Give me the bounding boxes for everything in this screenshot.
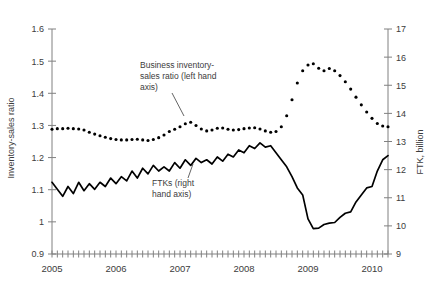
chart-annotations: Business inventory-sales ratio (left han… <box>140 60 217 199</box>
left-tick-label: 1.3 <box>31 121 44 131</box>
right-tick-label: 17 <box>396 24 406 34</box>
right-tick-label: 9 <box>396 249 401 259</box>
right-tick-label: 15 <box>396 81 406 91</box>
x-tick-label: 2005 <box>41 263 62 274</box>
data-series <box>50 62 389 229</box>
x-tick-label: 2006 <box>105 263 126 274</box>
left-tick-label: 1 <box>39 217 44 227</box>
right-axis-ticks: 17161514131211109 <box>384 24 406 259</box>
left-tick-label: 1.5 <box>31 57 44 67</box>
left-tick-label: 1.6 <box>31 24 44 34</box>
ftk-annotation-text: FTKs (righthand axis) <box>152 178 195 199</box>
inventory-annotation: Business inventory-sales ratio (left han… <box>140 60 217 116</box>
left-axis-title: Inventory-sales ratio <box>6 97 16 178</box>
right-tick-label: 16 <box>396 53 406 63</box>
right-tick-label: 10 <box>396 221 406 231</box>
chart-svg: 1.61.51.41.31.21.110.9 17161514131211109… <box>0 0 435 293</box>
x-tick-label: 2007 <box>169 263 190 274</box>
left-tick-label: 1.2 <box>31 153 44 163</box>
right-tick-label: 11 <box>396 193 405 203</box>
series-ftk <box>52 143 388 229</box>
right-tick-label: 12 <box>396 165 406 175</box>
right-tick-label: 13 <box>396 137 406 147</box>
series-inventory-ratio <box>50 62 389 142</box>
left-tick-label: 1.1 <box>31 185 44 195</box>
left-tick-label: 1.4 <box>31 89 44 99</box>
inventory-annotation-text: Business inventory-sales ratio (left han… <box>140 60 217 92</box>
right-axis-title: FTK, billion <box>415 129 425 174</box>
ftk-annotation: FTKs (righthand axis) <box>152 164 195 199</box>
chart-container: 1.61.51.41.31.21.110.9 17161514131211109… <box>0 0 435 293</box>
left-tick-label: 0.9 <box>31 249 44 259</box>
x-tick-label: 2008 <box>233 263 254 274</box>
x-tick-label: 2010 <box>361 263 382 274</box>
x-tick-label: 2009 <box>297 263 318 274</box>
right-tick-label: 14 <box>396 109 406 119</box>
